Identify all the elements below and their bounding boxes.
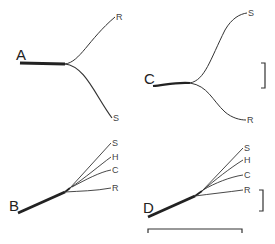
leaf-label-b-c: C (112, 165, 119, 175)
tree-panel-c (153, 13, 247, 120)
tree-panel-b (18, 143, 111, 213)
panel-label-d: D (143, 199, 154, 216)
vertical-scale-bar-top (261, 63, 265, 88)
leaf-label-b-s: S (112, 138, 118, 148)
leaf-label-d-h: H (244, 155, 251, 165)
panel-label-a: A (16, 46, 26, 63)
tree-panel-a (20, 17, 115, 118)
leaf-label-b-h: H (112, 152, 119, 162)
panel-label-c: C (144, 70, 155, 87)
vertical-scale-bar-bottom (259, 190, 263, 211)
panel-label-b: B (9, 197, 19, 214)
horizontal-scale-bar (148, 229, 242, 233)
leaf-label-a-s: S (113, 113, 119, 123)
leaf-label-d-r: R (244, 185, 251, 195)
leaf-label-c-r: R (247, 115, 254, 125)
tree-panel-d (148, 148, 243, 217)
leaf-label-a-r: R (116, 12, 123, 22)
leaf-label-c-s: S (248, 8, 254, 18)
leaf-label-d-s: S (244, 143, 250, 153)
leaf-label-b-r: R (112, 183, 119, 193)
leaf-label-d-c: C (244, 170, 251, 180)
figure-canvas: A R S C S R B S H C R D S H C R (0, 0, 275, 244)
